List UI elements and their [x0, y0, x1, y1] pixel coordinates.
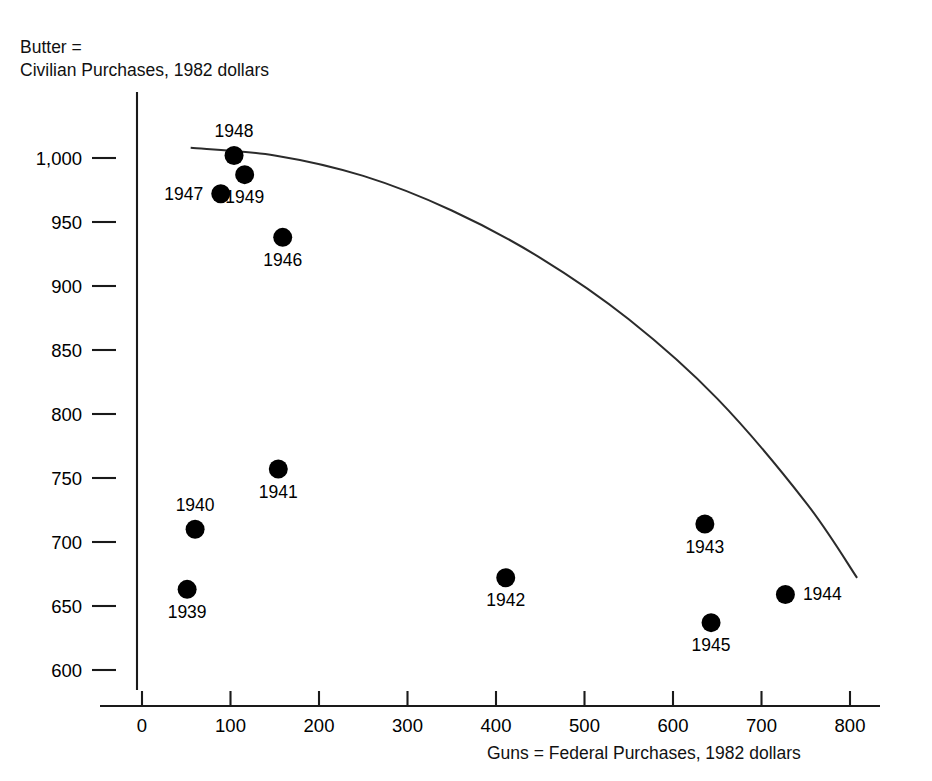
x-tick-label: 300	[392, 715, 423, 736]
data-point-label-1946: 1946	[263, 250, 302, 270]
data-point-1940	[186, 520, 205, 539]
data-point-label-1941: 1941	[259, 482, 298, 502]
chart-canvas: Butter =Civilian Purchases, 1982 dollars…	[0, 0, 932, 781]
x-tick-label: 800	[835, 715, 866, 736]
x-tick-label: 600	[658, 715, 689, 736]
data-points-group: 1939194019411942194319441945194619471948…	[164, 121, 842, 655]
scatter-plot: 6006507007508008509009501,000 0100200300…	[0, 0, 932, 781]
y-tick-label: 1,000	[36, 148, 82, 169]
frontier-curve-group	[191, 148, 857, 578]
data-point-label-1948: 1948	[215, 121, 254, 141]
y-axis: 6006507007508008509009501,000	[36, 92, 137, 690]
y-tick-label: 650	[51, 596, 82, 617]
x-tick-label: 500	[569, 715, 600, 736]
x-axis: 0100200300400500600700800	[100, 691, 880, 736]
data-point-1941	[269, 460, 288, 479]
data-point-label-1940: 1940	[176, 495, 215, 515]
data-point-1948	[225, 146, 244, 165]
data-point-label-1947: 1947	[164, 184, 203, 204]
data-point-label-1943: 1943	[685, 537, 724, 557]
y-tick-label: 850	[51, 340, 82, 361]
data-point-1946	[273, 228, 292, 247]
y-tick-label: 700	[51, 532, 82, 553]
data-point-label-1939: 1939	[168, 602, 207, 622]
data-point-label-1942: 1942	[486, 590, 525, 610]
y-tick-label: 600	[51, 660, 82, 681]
x-tick-label: 400	[481, 715, 512, 736]
data-point-label-1945: 1945	[692, 635, 731, 655]
data-point-1945	[702, 613, 721, 632]
y-tick-label: 750	[51, 468, 82, 489]
data-point-1944	[776, 585, 795, 604]
data-point-1939	[178, 580, 197, 599]
x-tick-label: 200	[304, 715, 335, 736]
y-tick-label: 800	[51, 404, 82, 425]
x-tick-label: 700	[746, 715, 777, 736]
data-point-1942	[496, 568, 515, 587]
x-tick-label: 0	[137, 715, 147, 736]
y-tick-label: 950	[51, 212, 82, 233]
data-point-1949	[235, 165, 254, 184]
data-point-label-1944: 1944	[803, 584, 842, 604]
production-possibilities-frontier-curve	[191, 148, 857, 578]
data-point-label-1949: 1949	[225, 187, 264, 207]
y-tick-label: 900	[51, 276, 82, 297]
data-point-1943	[695, 515, 714, 534]
x-tick-label: 100	[215, 715, 246, 736]
